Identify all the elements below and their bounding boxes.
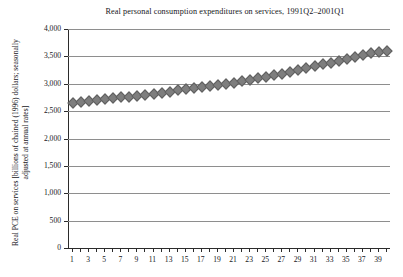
x-tick-mark [330,249,331,252]
x-tick-mark [338,249,339,252]
chart-title: Real personal consumption expenditures o… [60,7,390,16]
y-tick-mark [64,248,68,249]
x-tick-mark [346,249,347,252]
x-tick-label: 19 [209,255,225,264]
x-tick-label: 35 [338,255,354,264]
x-tick-mark [209,249,210,252]
x-tick-label: 37 [354,255,370,264]
x-tick-mark [241,249,242,252]
x-tick-mark [362,249,363,252]
y-tick-label: 500 [28,216,61,225]
x-tick-mark [265,249,266,252]
x-tick-label: 23 [241,255,257,264]
x-tick-label: 11 [145,255,161,264]
data-point-marker [381,45,392,56]
x-tick-label: 5 [96,255,112,264]
x-tick-mark [378,249,379,252]
x-tick-mark [217,249,218,252]
x-tick-label: 13 [161,255,177,264]
x-tick-mark [153,249,154,252]
x-tick-mark [225,249,226,252]
x-tick-mark [257,249,258,252]
x-tick-label: 31 [306,255,322,264]
x-tick-label: 3 [80,255,96,264]
x-tick-mark [201,249,202,252]
x-tick-label: 33 [322,255,338,264]
x-tick-mark [305,249,306,252]
x-tick-mark [136,249,137,252]
x-tick-mark [96,249,97,252]
x-tick-label: 9 [128,255,144,264]
x-tick-mark [177,249,178,252]
x-tick-mark [128,249,129,252]
x-tick-mark [273,249,274,252]
x-tick-mark [88,249,89,252]
y-tick-label: 3,500 [28,51,61,60]
chart-figure: Real personal consumption expenditures o… [0,0,403,277]
x-tick-mark [80,249,81,252]
x-tick-label: 17 [193,255,209,264]
x-tick-mark [370,249,371,252]
x-axis-line [68,248,390,249]
x-tick-mark [104,249,105,252]
plot-area [68,29,390,248]
x-tick-mark [112,249,113,252]
x-tick-label: 21 [225,255,241,264]
y-gridline [68,111,390,112]
x-tick-mark [193,249,194,252]
x-tick-mark [297,249,298,252]
y-tick-label: 2,500 [28,106,61,115]
x-tick-mark [169,249,170,252]
y-gridline [68,193,390,194]
x-tick-label: 25 [257,255,273,264]
y-tick-label: 4,000 [28,24,61,33]
x-tick-label: 27 [273,255,289,264]
y-tick-label: 1,000 [28,188,61,197]
x-tick-label: 7 [112,255,128,264]
x-tick-mark [72,249,73,252]
x-tick-mark [161,249,162,252]
y-gridline [68,221,390,222]
x-tick-label: 29 [289,255,305,264]
y-gridline [68,139,390,140]
y-tick-label: 2,000 [28,134,61,143]
x-tick-mark [120,249,121,252]
y-tick-label: 1,500 [28,161,61,170]
x-tick-mark [289,249,290,252]
x-tick-mark [233,249,234,252]
x-tick-mark [144,249,145,252]
x-tick-label: 39 [370,255,386,264]
x-tick-mark [386,249,387,252]
x-tick-mark [249,249,250,252]
x-tick-mark [314,249,315,252]
y-gridline [68,166,390,167]
y-tick-label: 0 [28,243,61,252]
y-gridline [68,29,390,30]
x-tick-label: 15 [177,255,193,264]
y-tick-label: 3,000 [28,79,61,88]
x-tick-mark [322,249,323,252]
x-tick-mark [185,249,186,252]
x-tick-mark [354,249,355,252]
x-tick-label: 1 [64,255,80,264]
x-tick-mark [281,249,282,252]
